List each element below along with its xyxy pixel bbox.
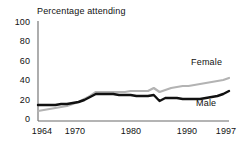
- plot-area: [0, 0, 244, 148]
- series-line-male: [38, 91, 229, 105]
- chart-container: Percentage attending 100 80 60 40 20 0 1…: [0, 0, 244, 148]
